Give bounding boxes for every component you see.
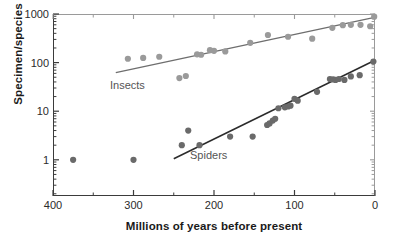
x-axis-title: Millions of years before present: [53, 220, 375, 232]
series-label-spiders: Spiders: [190, 150, 227, 161]
data-point-spiders: [227, 134, 233, 140]
chart-figure: 1000100101 4003002001000 Insects Spiders…: [0, 0, 393, 247]
data-point-insects: [140, 55, 146, 61]
y-axis-title: Specimen/species: [12, 0, 24, 124]
data-point-insects: [357, 22, 363, 28]
data-point-spiders: [370, 58, 376, 64]
data-point-insects: [125, 56, 131, 62]
series-label-insects: Insects: [110, 80, 145, 91]
data-point-insects: [183, 73, 189, 79]
data-point-spiders: [341, 77, 347, 83]
data-point-insects: [329, 25, 335, 31]
data-point-spiders: [295, 98, 301, 104]
data-point-spiders: [250, 134, 256, 140]
data-point-insects: [198, 52, 204, 58]
data-point-spiders: [287, 103, 293, 109]
data-point-insects: [247, 40, 253, 46]
data-point-spiders: [275, 105, 281, 111]
data-point-insects: [348, 22, 354, 28]
data-point-spiders: [357, 72, 363, 78]
data-point-spiders: [185, 127, 191, 133]
data-point-spiders: [70, 157, 76, 163]
data-point-spiders: [348, 73, 354, 79]
data-point-insects: [285, 34, 291, 40]
data-point-insects: [309, 36, 315, 42]
data-point-insects: [265, 32, 271, 38]
data-point-spiders: [272, 116, 278, 122]
data-point-spiders: [314, 89, 320, 95]
trendline-spiders: [174, 61, 374, 159]
data-point-insects: [176, 75, 182, 81]
data-point-spiders: [130, 157, 136, 163]
data-point-insects: [156, 54, 162, 60]
plot-canvas: [0, 0, 393, 247]
data-point-insects: [211, 48, 217, 54]
data-point-insects: [367, 23, 373, 29]
data-point-spiders: [336, 76, 342, 82]
data-point-insects: [222, 48, 228, 54]
data-point-insects: [371, 14, 377, 20]
data-point-spiders: [196, 142, 202, 148]
data-point-insects: [340, 22, 346, 28]
data-point-spiders: [179, 142, 185, 148]
